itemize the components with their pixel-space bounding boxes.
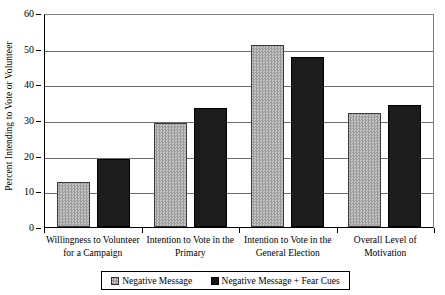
bar-group <box>142 15 239 227</box>
legend-swatch-icon <box>211 277 219 285</box>
x-axis-category-label-line: Intention to Vote in the <box>240 234 336 247</box>
bar-chart: Percent Intending to Vote or Volunteer 6… <box>0 0 445 295</box>
plot-area <box>44 14 434 228</box>
y-axis-tick-label: 10 <box>24 187 34 197</box>
x-axis-labels: Willingness to Volunteerfor a CampaignIn… <box>44 234 434 259</box>
y-axis-tick-label: 40 <box>24 80 34 90</box>
bar[interactable] <box>388 105 421 227</box>
bar[interactable] <box>194 108 227 227</box>
legend-item-label: Negative Message <box>122 276 192 286</box>
x-axis-tick-mark <box>44 228 45 233</box>
y-axis-tick-mark <box>36 85 41 86</box>
y-axis-tick-mark <box>36 14 41 15</box>
x-axis-category-label-line: Motivation <box>338 247 434 260</box>
x-axis-category-label-line: Intention to Vote in the <box>143 234 239 247</box>
x-axis-category-label: Intention to Vote in thePrimary <box>142 234 240 259</box>
bar[interactable] <box>154 123 187 227</box>
x-axis-category-label-line: Primary <box>143 247 239 260</box>
legend-item[interactable]: Negative Message <box>111 276 192 286</box>
y-axis-tick-mark <box>36 50 41 51</box>
y-axis-tick-mark <box>36 121 41 122</box>
y-axis-tick-mark <box>36 192 41 193</box>
y-axis-ticks: 6050403020100 <box>0 0 44 232</box>
x-axis-ticks <box>44 228 434 233</box>
y-axis-tick-label: 50 <box>24 45 34 55</box>
x-axis-category-label-line: for a Campaign <box>45 247 141 260</box>
bars-layer <box>45 15 433 227</box>
x-axis-tick-mark <box>434 228 435 233</box>
y-axis-tick-label: 60 <box>24 9 34 19</box>
bar-group <box>336 15 433 227</box>
bar[interactable] <box>291 57 324 227</box>
legend-swatch-icon <box>111 277 119 285</box>
legend-item[interactable]: Negative Message + Fear Cues <box>211 276 340 286</box>
x-axis-category-label-line: Overall Level of <box>338 234 434 247</box>
x-axis-category-label: Overall Level ofMotivation <box>337 234 435 259</box>
x-axis-category-label: Intention to Vote in theGeneral Election <box>239 234 337 259</box>
x-axis-category-label-line: General Election <box>240 247 336 260</box>
x-axis-category-label: Willingness to Volunteerfor a Campaign <box>44 234 142 259</box>
bar[interactable] <box>348 113 381 227</box>
bar[interactable] <box>251 45 284 227</box>
y-axis-tick-mark <box>36 157 41 158</box>
y-axis-tick-label: 20 <box>24 152 34 162</box>
chart-legend: Negative MessageNegative Message + Fear … <box>101 271 350 290</box>
x-axis-tick-mark <box>239 228 240 233</box>
y-axis-tick-mark <box>36 228 41 229</box>
x-axis-category-label-line: Willingness to Volunteer <box>45 234 141 247</box>
x-axis-tick-mark <box>142 228 143 233</box>
bar[interactable] <box>97 159 130 227</box>
y-axis-tick-label: 0 <box>29 223 34 233</box>
bar-group <box>45 15 142 227</box>
legend-item-label: Negative Message + Fear Cues <box>222 276 340 286</box>
y-axis-tick-label: 30 <box>24 116 34 126</box>
bar[interactable] <box>57 182 90 227</box>
x-axis-tick-mark <box>337 228 338 233</box>
bar-group <box>239 15 336 227</box>
